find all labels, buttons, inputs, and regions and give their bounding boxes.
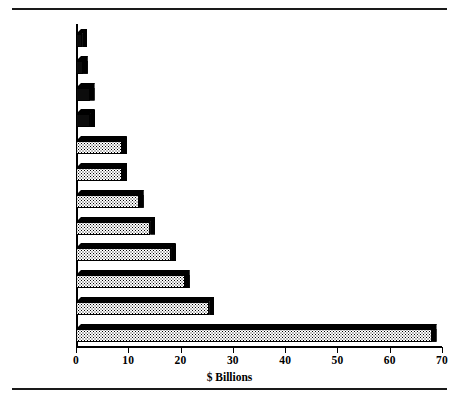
bar-front-face	[76, 88, 90, 101]
x-tick-label-0: 0	[56, 354, 96, 366]
x-axis-line	[76, 346, 442, 348]
bar-uk	[76, 324, 438, 343]
x-tick-60	[390, 347, 391, 353]
bar-front-face	[76, 302, 209, 315]
bar-denmark	[76, 109, 96, 128]
bar-row: Luxembourg	[76, 78, 442, 103]
bar-row: Portugal	[76, 51, 442, 76]
bar-side-face	[83, 56, 88, 74]
bar-front-face	[76, 248, 171, 261]
bar-side-face	[90, 83, 95, 101]
bar-side-face	[139, 190, 144, 208]
x-tick-70	[442, 347, 443, 353]
bar-side-face	[122, 163, 127, 181]
bar-portugal	[76, 56, 89, 75]
bar-row: Italy	[76, 212, 442, 237]
bar-front-face	[76, 168, 122, 181]
bar-greece	[76, 29, 88, 48]
x-tick-label-60: 60	[370, 354, 410, 366]
bar-luxembourg	[76, 83, 96, 102]
bar-side-face	[209, 297, 214, 315]
x-tick-50	[337, 347, 338, 353]
plot-area: GreecePortugalLuxembourgDenmarkSpainIrel…	[76, 24, 442, 346]
bottom-rule	[12, 388, 447, 390]
bar-netherlands	[76, 270, 191, 289]
bar-row: Ireland	[76, 158, 442, 183]
bar-row: Belgium	[76, 185, 442, 210]
x-tick-40	[285, 347, 286, 353]
bar-front-face	[76, 61, 83, 74]
bar-side-face	[150, 217, 155, 235]
bar-row: France	[76, 238, 442, 263]
bar-row: Greece	[76, 24, 442, 49]
bar-side-face	[82, 29, 87, 47]
bar-side-face	[90, 109, 95, 127]
bar-front-face	[76, 275, 185, 288]
x-tick-0	[76, 347, 77, 353]
bar-row: Denmark	[76, 104, 442, 129]
bar-front-face	[76, 141, 122, 154]
bar-side-face	[122, 136, 127, 154]
x-tick-10	[128, 347, 129, 353]
bar-west-germany	[76, 297, 215, 316]
bar-side-face	[185, 270, 190, 288]
top-rule	[12, 8, 447, 10]
bar-row: West Germany	[76, 292, 442, 317]
bar-italy	[76, 217, 156, 236]
bar-france	[76, 243, 177, 262]
x-tick-label-70: 70	[422, 354, 459, 366]
x-tick-label-30: 30	[213, 354, 253, 366]
x-tick-label-50: 50	[317, 354, 357, 366]
bar-row: Spain	[76, 131, 442, 156]
x-tick-label-20: 20	[161, 354, 201, 366]
bar-belgium	[76, 190, 145, 209]
bar-row: Netherlands	[76, 265, 442, 290]
x-tick-label-40: 40	[265, 354, 305, 366]
x-tick-label-10: 10	[108, 354, 148, 366]
bar-ireland	[76, 163, 128, 182]
bar-front-face	[76, 34, 82, 47]
bar-spain	[76, 136, 128, 155]
x-tick-30	[233, 347, 234, 353]
x-tick-20	[181, 347, 182, 353]
bar-side-face	[171, 243, 176, 261]
bar-row: UK	[76, 319, 442, 344]
bar-front-face	[76, 329, 432, 342]
bar-front-face	[76, 222, 150, 235]
bar-front-face	[76, 114, 90, 127]
x-axis-label: $ Billions	[0, 371, 459, 383]
chart-figure: GreecePortugalLuxembourgDenmarkSpainIrel…	[0, 0, 459, 408]
bar-front-face	[76, 195, 139, 208]
bar-side-face	[432, 324, 437, 342]
